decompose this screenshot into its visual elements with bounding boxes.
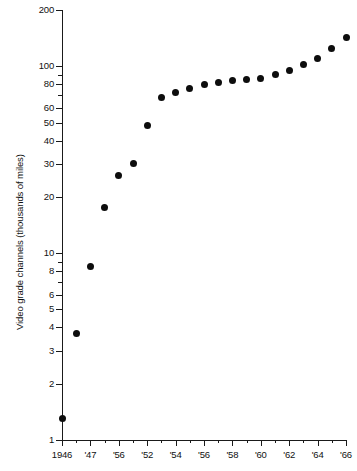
data-point (243, 76, 250, 83)
x-tick-1958 (232, 440, 233, 446)
data-point (59, 415, 66, 422)
data-point (215, 79, 222, 86)
data-point (144, 122, 151, 129)
y-tick-50 (56, 123, 62, 124)
y-tick-label-100: 100 (20, 61, 54, 71)
data-point (73, 330, 80, 337)
x-tick-minor-1961 (275, 440, 276, 443)
y-tick-100 (56, 66, 62, 67)
y-tick-label-1: 1 (20, 435, 54, 445)
y-tick-label-wrap: 60 (14, 103, 54, 113)
data-point (314, 55, 321, 62)
data-point (201, 81, 208, 88)
y-tick-minor-7 (58, 282, 62, 283)
y-tick-30 (56, 164, 62, 165)
y-tick-200 (56, 10, 62, 11)
y-tick-label-wrap: 80 (14, 79, 54, 89)
y-axis-title: Video grade channels (thousands of miles… (14, 154, 25, 330)
y-tick-minor-9 (58, 262, 62, 263)
y-tick-label-2: 2 (20, 379, 54, 389)
y-tick-label-wrap: 1 (14, 435, 54, 445)
x-tick-1962 (289, 440, 290, 446)
x-tick-1956 (204, 440, 205, 446)
data-point (158, 94, 165, 101)
x-tick-1960 (261, 440, 262, 446)
data-point (257, 75, 264, 82)
y-tick-40 (56, 141, 62, 142)
y-tick-10 (56, 253, 62, 254)
y-tick-minor-70 (58, 95, 62, 96)
y-tick-label-4: 4 (20, 322, 54, 332)
y-tick-label-50: 50 (20, 118, 54, 128)
x-tick-1964 (318, 440, 319, 446)
x-tick-minor-1949 (105, 440, 106, 443)
x-tick-1950 (119, 440, 120, 446)
y-tick-label-30: 30 (20, 159, 54, 169)
y-tick-label-20: 20 (20, 192, 54, 202)
y-tick-label-80: 80 (20, 79, 54, 89)
data-point (343, 34, 350, 41)
y-tick-label-wrap: 200 (14, 5, 54, 15)
data-point (186, 85, 193, 92)
x-tick-minor-1953 (161, 440, 162, 443)
y-tick-6 (56, 295, 62, 296)
data-point (286, 67, 293, 74)
y-tick-label-200: 200 (20, 5, 54, 15)
y-tick-3 (56, 351, 62, 352)
y-tick-label-60: 60 (20, 103, 54, 113)
y-tick-label-10: 10 (20, 248, 54, 258)
x-tick-1946 (62, 440, 63, 446)
x-tick-minor-1955 (190, 440, 191, 443)
y-tick-label-8: 8 (20, 266, 54, 276)
y-tick-label-40: 40 (20, 136, 54, 146)
x-tick-minor-1963 (303, 440, 304, 443)
y-tick-4 (56, 327, 62, 328)
data-point (300, 61, 307, 68)
y-tick-2 (56, 384, 62, 385)
y-tick-5 (56, 309, 62, 310)
y-tick-label-wrap: 100 (14, 61, 54, 71)
x-tick-1948 (90, 440, 91, 446)
data-point (328, 45, 335, 52)
x-tick-1966 (346, 440, 347, 446)
x-tick-1952 (147, 440, 148, 446)
data-point (172, 89, 179, 96)
data-point (272, 71, 279, 78)
y-tick-label-6: 6 (20, 290, 54, 300)
data-point (101, 204, 108, 211)
x-tick-minor-1957 (218, 440, 219, 443)
data-point (229, 77, 236, 84)
y-axis-line (62, 10, 63, 440)
y-tick-20 (56, 197, 62, 198)
data-point (87, 263, 94, 270)
x-tick-label-1966: '66 (326, 450, 357, 460)
y-tick-label-wrap: 3 (14, 346, 54, 356)
y-tick-80 (56, 84, 62, 85)
y-tick-60 (56, 108, 62, 109)
y-tick-label-3: 3 (20, 346, 54, 356)
x-tick-1954 (176, 440, 177, 446)
y-tick-8 (56, 271, 62, 272)
x-tick-minor-1951 (133, 440, 134, 443)
y-tick-label-wrap: 2 (14, 379, 54, 389)
y-tick-label-wrap: 40 (14, 136, 54, 146)
y-tick-label-5: 5 (20, 304, 54, 314)
x-tick-minor-1947 (76, 440, 77, 443)
data-point (115, 172, 122, 179)
x-tick-minor-1959 (247, 440, 248, 443)
x-tick-minor-1965 (332, 440, 333, 443)
y-tick-minor-90 (58, 75, 62, 76)
data-point (130, 160, 137, 167)
y-tick-label-wrap: 50 (14, 118, 54, 128)
